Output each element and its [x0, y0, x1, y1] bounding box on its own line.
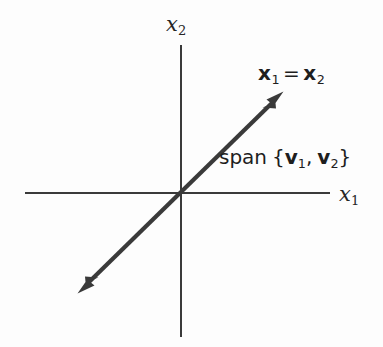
span-vector-layer — [0, 0, 383, 347]
span-vector-arrowhead-lower-left — [78, 277, 99, 294]
y-axis-label-base: x — [166, 12, 178, 36]
span-v1: v — [285, 145, 298, 169]
y-axis-label-subscript: 2 — [178, 23, 186, 38]
y-axis-label: x2 — [166, 14, 186, 35]
vector-equation-rhs-subscript: 2 — [317, 72, 326, 87]
x-axis-label: x1 — [339, 184, 359, 205]
vector-equation-lhs: x — [258, 61, 271, 85]
vector-equation-rhs: x — [303, 61, 316, 85]
vector-equation-operator: = — [280, 61, 303, 85]
span-vector-arrowhead-upper-right — [263, 92, 284, 109]
vector-equation-label: x1=x2 — [258, 63, 325, 83]
span-v2-subscript: 2 — [330, 156, 338, 171]
span-open-brace: { — [267, 145, 285, 169]
span-vector-shaft — [88, 102, 273, 283]
span-set-label: span{v1,v2} — [219, 147, 351, 167]
span-diagram-figure: x2 x1 x1=x2 span{v1,v2} — [0, 0, 383, 347]
span-close-brace: } — [339, 145, 352, 169]
span-keyword: span — [219, 145, 267, 169]
x-axis-label-subscript: 1 — [351, 193, 359, 208]
span-v1-subscript: 1 — [298, 156, 306, 171]
vector-equation-lhs-subscript: 1 — [271, 72, 280, 87]
span-v2: v — [312, 145, 330, 169]
x-axis-label-base: x — [339, 182, 351, 206]
